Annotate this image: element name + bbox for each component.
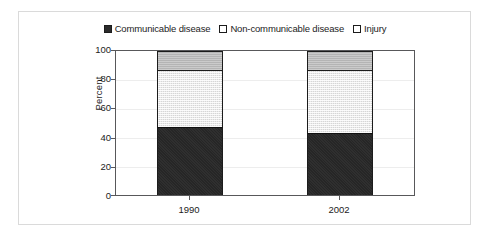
y-tick-label-0: 0 xyxy=(71,190,111,201)
y-tick-label-20: 20 xyxy=(71,161,111,172)
bar-2002 xyxy=(307,51,373,195)
legend-label-communicable: Communicable disease xyxy=(115,24,211,34)
bar-segment-1990-injury xyxy=(157,51,223,70)
legend-item-non-communicable-disease: Non-communicable disease xyxy=(219,24,344,34)
x-tick-mark-2002 xyxy=(339,196,340,200)
y-tick-label-60: 60 xyxy=(71,102,111,113)
y-axis-title: Percent xyxy=(93,59,104,129)
legend-item-communicable-disease: Communicable disease xyxy=(104,24,211,34)
bar-segment-1990-non-communicable xyxy=(157,70,223,128)
bar-segment-2002-non-communicable xyxy=(307,70,373,133)
plot-wrapper: Percent 100 80 60 40 20 0 xyxy=(115,50,415,196)
x-tick-label-1990: 1990 xyxy=(144,204,234,215)
legend-item-injury: Injury xyxy=(353,24,386,34)
bar-segment-1990-communicable xyxy=(157,127,223,195)
bar-1990 xyxy=(157,51,223,195)
legend-swatch-icon-communicable xyxy=(104,25,112,33)
legend-label-injury: Injury xyxy=(364,24,386,34)
y-tick-label-100: 100 xyxy=(71,44,111,55)
bar-segment-2002-communicable xyxy=(307,133,373,195)
chart-figure: Communicable disease Non-communicable di… xyxy=(0,0,490,241)
y-tick-label-40: 40 xyxy=(71,132,111,143)
chart-legend: Communicable disease Non-communicable di… xyxy=(0,24,490,34)
x-tick-label-2002: 2002 xyxy=(294,204,384,215)
y-tick-label-80: 80 xyxy=(71,73,111,84)
legend-swatch-icon-non-communicable xyxy=(219,25,227,33)
bar-segment-2002-injury xyxy=(307,51,373,70)
x-tick-mark-1990 xyxy=(189,196,190,200)
legend-swatch-icon-injury xyxy=(353,25,361,33)
legend-label-non-communicable: Non-communicable disease xyxy=(230,24,344,34)
plot-area xyxy=(115,50,415,196)
